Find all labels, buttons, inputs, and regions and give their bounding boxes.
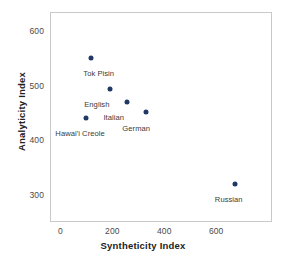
data-point bbox=[89, 55, 94, 60]
x-tick-label: 400 bbox=[142, 226, 186, 236]
y-tick-label: 600 bbox=[4, 26, 44, 36]
data-point bbox=[84, 116, 89, 121]
x-axis-title: Syntheticity Index bbox=[0, 240, 286, 251]
data-point-label: English bbox=[84, 100, 109, 109]
data-point-label: German bbox=[122, 124, 150, 133]
x-tick-label: 0 bbox=[38, 226, 82, 236]
data-point bbox=[125, 100, 130, 105]
data-point-label: Italian bbox=[103, 113, 124, 122]
x-tick-label: 200 bbox=[90, 226, 134, 236]
data-point bbox=[232, 182, 237, 187]
data-point bbox=[108, 87, 113, 92]
x-tick-label: 600 bbox=[194, 226, 238, 236]
data-point-label: Russian bbox=[215, 195, 243, 204]
data-point-label: Hawai'i Creole bbox=[55, 129, 104, 138]
y-axis-title: Analyticity Index bbox=[16, 37, 27, 187]
scatter-chart: 600 500 400 300 0 200 400 600 Synthetici… bbox=[0, 0, 286, 259]
y-tick-label: 300 bbox=[4, 190, 44, 200]
data-point bbox=[144, 109, 149, 114]
data-point-label: Tok Pisin bbox=[83, 69, 114, 78]
